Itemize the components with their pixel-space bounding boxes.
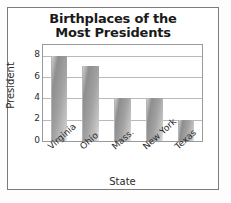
y-tick-label: 0: [28, 136, 40, 145]
y-tick-label: 6: [28, 72, 40, 81]
y-axis-ticks: 86420: [27, 44, 40, 142]
chart-title-line-2: Most Presidents: [14, 26, 212, 40]
chart-title: Birthplaces of the Most Presidents: [14, 12, 212, 40]
x-axis-ticks: VirginiaOhioMass.New YorkTexas: [42, 144, 203, 176]
x-axis-label: State: [42, 176, 203, 187]
bar-ohio: [82, 66, 99, 141]
chart-figure: Birthplaces of the Most Presidents 86420…: [0, 0, 231, 203]
y-tick-label: 2: [28, 114, 40, 123]
chart-title-line-1: Birthplaces of the: [14, 12, 212, 26]
y-tick-label: 8: [28, 50, 40, 59]
y-tick-label: 4: [28, 93, 40, 102]
y-axis-label: President: [5, 53, 16, 119]
